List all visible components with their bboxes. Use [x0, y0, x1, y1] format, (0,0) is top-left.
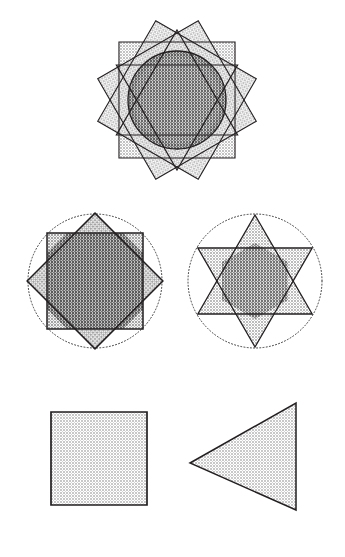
geometry-canvas [0, 0, 345, 557]
figure-six-point-star [188, 214, 322, 348]
figure-twelve-point-star [98, 21, 257, 180]
plain-triangle-fill [190, 403, 296, 510]
plain-square-fill [51, 412, 147, 505]
figure-eight-point-star [27, 213, 163, 349]
figure-sheet [0, 0, 345, 557]
figure-plain-triangle [190, 403, 296, 510]
star12-core-fill-inner [133, 56, 221, 144]
figure-plain-square [51, 412, 147, 505]
